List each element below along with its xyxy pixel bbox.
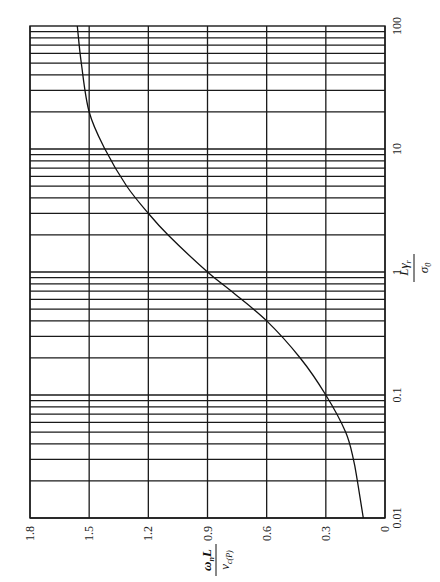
- svg-text:Lγr: Lγr: [396, 259, 413, 276]
- svg-text:σ0: σ0: [416, 263, 433, 273]
- x-tick-label: 10: [390, 143, 404, 155]
- x-axis-label: Lγr σ0: [396, 254, 433, 282]
- y-tick-label: 1.2: [141, 526, 155, 541]
- y-tick-label: 0: [378, 526, 392, 532]
- y-axis-label: ωnL vc(P): [199, 544, 234, 576]
- rotated-log-chart: 0.010.1110100 00.30.60.91.21.51.8 Lγr σ0…: [0, 0, 440, 582]
- x-tick-label: 100: [390, 17, 404, 35]
- y-tick-label: 0.6: [260, 526, 274, 541]
- x-tick-label: 0.01: [390, 508, 404, 529]
- y-axis-tick-labels: 00.30.60.91.21.51.8: [23, 526, 392, 541]
- x-tick-label: 0.1: [390, 388, 404, 403]
- y-tick-label: 1.8: [23, 526, 37, 541]
- y-tick-label: 0.3: [319, 526, 333, 541]
- svg-text:ωnL: ωnL: [199, 549, 216, 571]
- y-tick-label: 0.9: [201, 526, 215, 541]
- svg-text:vc(P): vc(P): [217, 550, 234, 570]
- y-tick-label: 1.5: [82, 526, 96, 541]
